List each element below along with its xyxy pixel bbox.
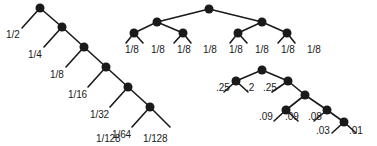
tree-diagram-figure: 1/21/41/81/161/321/641/1281/1281/81/81/8…: [0, 0, 377, 146]
leaf-probability-label: 1/8: [203, 44, 217, 55]
tree-node: [153, 18, 162, 27]
tree-node: [234, 29, 243, 38]
leaf-probability-label: 1/8: [229, 44, 243, 55]
leaf-probability-label: .08: [308, 111, 322, 122]
tree-node: [258, 66, 267, 75]
leaf-probability-label: 1/128: [143, 133, 168, 144]
leaf-probability-label: 1/8: [255, 44, 269, 55]
leaf-probability-label: .25: [216, 82, 230, 93]
tree-edge: [209, 9, 262, 22]
tree-edge: [157, 9, 209, 22]
leaf-probability-label: .01: [349, 125, 363, 136]
leaf-probability-label: .2: [246, 82, 254, 93]
mixed-probability-tree: [224, 66, 356, 134]
tree-node: [205, 5, 214, 14]
tree-node: [179, 29, 188, 38]
leaf-probability-label: .03: [316, 125, 330, 136]
leaf-probability-label: 1/8: [281, 44, 295, 55]
tree-node: [124, 83, 133, 92]
tree-node: [301, 91, 310, 100]
tree-node: [58, 23, 67, 32]
tree-node: [258, 18, 267, 27]
leaf-probability-label: 1/8: [50, 69, 64, 80]
leaf-probability-label: 1/8: [125, 44, 139, 55]
tree-node: [340, 118, 349, 127]
tree-node: [130, 29, 139, 38]
leaf-probability-label: 1/2: [6, 29, 20, 40]
tree-node: [232, 77, 241, 86]
tree-node: [283, 29, 292, 38]
leaf-probability-label: 1/8: [307, 44, 321, 55]
tree-node: [146, 103, 155, 112]
tree-node: [36, 4, 45, 13]
leaf-probability-label: .09: [285, 111, 299, 122]
leaf-probability-label: 1/8: [151, 44, 165, 55]
leaf-probability-label: .09: [259, 111, 273, 122]
tree-node: [284, 77, 293, 86]
leaf-probability-label: 1/4: [28, 49, 42, 60]
leaf-probability-label: 1/16: [68, 89, 87, 100]
tree-node: [323, 106, 332, 115]
leaf-probability-label: .25: [263, 82, 277, 93]
tree-node: [80, 43, 89, 52]
leaf-probability-label: 1/8: [177, 44, 191, 55]
leaf-probability-label: 1/32: [90, 109, 109, 120]
leaf-probability-label: 1/128: [96, 133, 121, 144]
balanced-uniform-tree: [126, 5, 295, 44]
tree-node: [102, 63, 111, 72]
